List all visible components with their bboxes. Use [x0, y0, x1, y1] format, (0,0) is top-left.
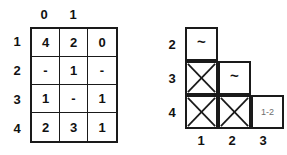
right-table-column-header-1: 1	[194, 134, 208, 147]
right-cell-r4c3: 1-2	[251, 95, 284, 129]
left-table-row-header-4: 4	[10, 122, 24, 135]
right-table-row-header-4: 4	[165, 106, 179, 119]
left-table-column-header-0: 0	[37, 8, 51, 21]
left-cell-r4c1: 2	[32, 113, 60, 141]
right-table-column-header-2: 2	[225, 134, 239, 147]
cross-out-icon	[187, 63, 216, 93]
right-table-row-header-3: 3	[165, 72, 179, 85]
right-table-row-header-2: 2	[165, 38, 179, 51]
right-cell-r4c3-text: 1-2	[261, 107, 274, 117]
left-table: 4 2 0 - 1 - 1 - 1 2 3 1	[30, 27, 118, 143]
left-cell-r4c2: 3	[60, 113, 88, 141]
left-cell-r4c3: 1	[88, 113, 116, 141]
left-cell-r2c2: 1	[60, 57, 88, 85]
left-cell-r2c3: -	[88, 57, 116, 85]
left-table-row-header-1: 1	[10, 35, 24, 48]
left-cell-r3c3: 1	[88, 85, 116, 113]
left-cell-r1c1: 4	[32, 29, 60, 57]
right-cell-r2c1-text: ~	[197, 37, 206, 47]
left-cell-r1c3: 0	[88, 29, 116, 57]
right-cell-r3c2: ~	[218, 61, 251, 95]
figure-canvas: 0 1 1 2 3 4 4 2 0 - 1 - 1 - 1 2 3 1 2 3 …	[0, 0, 287, 155]
right-cell-r2c1: ~	[185, 27, 218, 61]
left-cell-r3c1: 1	[32, 85, 60, 113]
cross-out-icon	[187, 97, 216, 127]
left-table-row-header-2: 2	[10, 64, 24, 77]
right-cell-r3c2-text: ~	[230, 71, 239, 81]
cross-out-icon	[220, 97, 249, 127]
right-table-column-header-3: 3	[256, 134, 270, 147]
left-table-row-header-3: 3	[10, 93, 24, 106]
left-table-column-header-1: 1	[66, 8, 80, 21]
right-cell-r4c1	[185, 95, 218, 129]
left-cell-r1c2: 2	[60, 29, 88, 57]
right-cell-r4c2	[218, 95, 251, 129]
right-table: ~ ~	[185, 27, 277, 129]
left-cell-r3c2: -	[60, 85, 88, 113]
left-cell-r2c1: -	[32, 57, 60, 85]
right-cell-r3c1	[185, 61, 218, 95]
